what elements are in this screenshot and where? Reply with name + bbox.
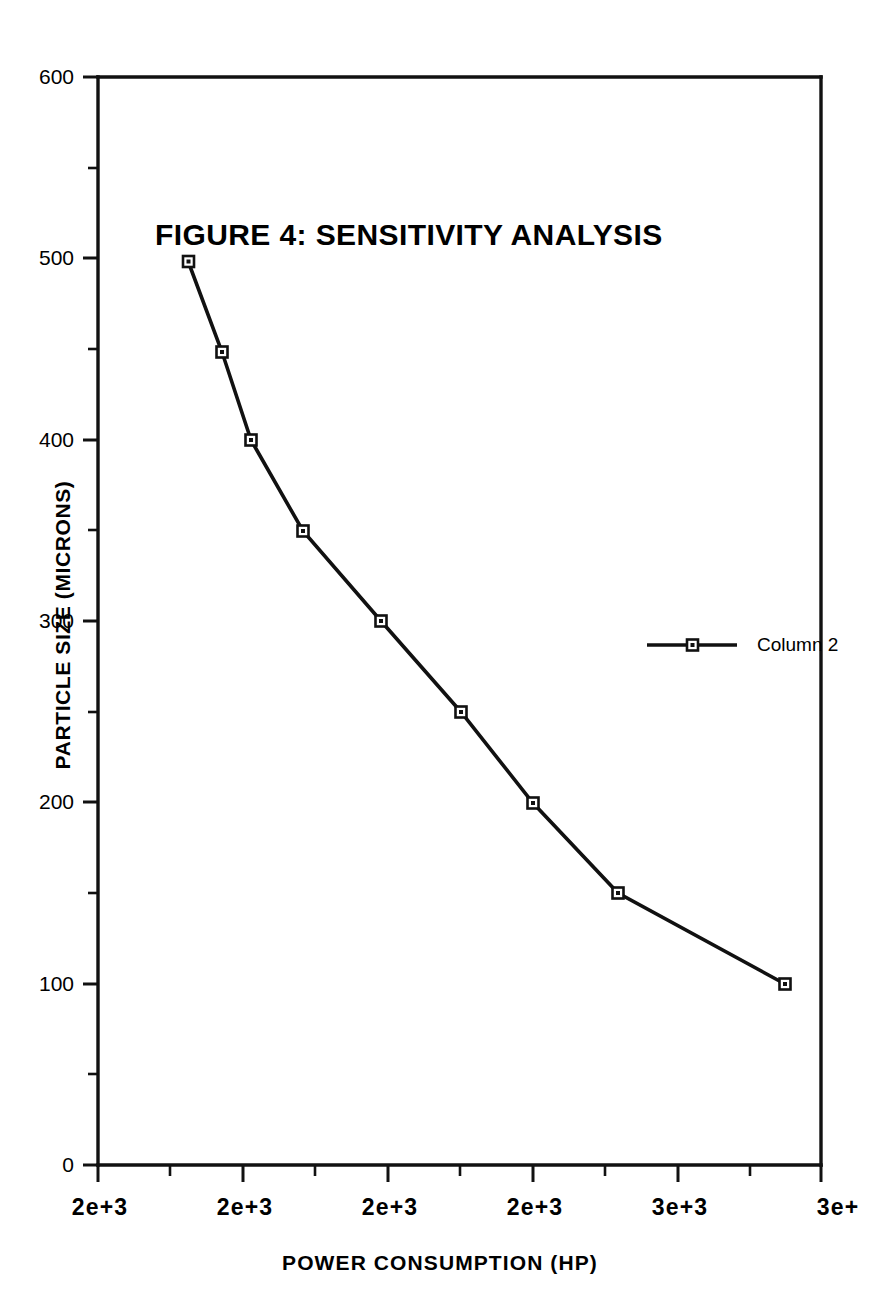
series-line-column-2 [188,261,785,984]
data-point-marker[interactable] [456,707,467,718]
data-point-marker[interactable] [613,888,624,899]
data-point-marker[interactable] [780,979,791,990]
data-point-marker[interactable] [183,256,194,267]
x-tick-label: 2e+3 [72,1194,129,1220]
x-axis-ticks [98,1165,821,1182]
y-axis-title: PARTICLE SIZE (MICRONS) [51,481,74,770]
figure-container: 600 500 400 300 200 100 0 2e+3 2e+3 2 [0,0,880,1311]
data-point-marker[interactable] [528,798,539,809]
chart-title: FIGURE 4: SENSITIVITY ANALYSIS [155,218,663,251]
data-point-marker[interactable] [376,616,387,627]
y-tick-label: 600 [39,65,74,88]
y-tick-label: 500 [39,246,74,269]
x-tick-label: 2e+3 [362,1194,419,1220]
data-point-marker[interactable] [217,347,228,358]
legend-marker-center [691,643,695,647]
y-axis-ticks [83,77,98,1165]
legend-item-column-2[interactable]: Column 2 [647,634,838,655]
x-axis-title: POWER CONSUMPTION (HP) [282,1251,598,1274]
legend: Column 2 [647,634,838,655]
x-tick-label: 2e+3 [507,1194,564,1220]
x-tick-label: 3e+ [817,1194,860,1220]
legend-label: Column 2 [757,634,838,655]
x-tick-label: 3e+3 [652,1194,709,1220]
y-tick-label: 0 [62,1153,74,1176]
x-tick-label: 2e+3 [217,1194,274,1220]
y-tick-label: 200 [39,790,74,813]
series-markers-column-2 [183,256,791,990]
sensitivity-analysis-chart: 600 500 400 300 200 100 0 2e+3 2e+3 2 [0,0,880,1311]
y-tick-label: 400 [39,428,74,451]
data-point-marker[interactable] [298,526,309,537]
x-axis-tick-labels: 2e+3 2e+3 2e+3 2e+3 3e+3 3e+ [72,1194,860,1220]
y-tick-label: 100 [39,972,74,995]
data-point-marker[interactable] [246,435,257,446]
